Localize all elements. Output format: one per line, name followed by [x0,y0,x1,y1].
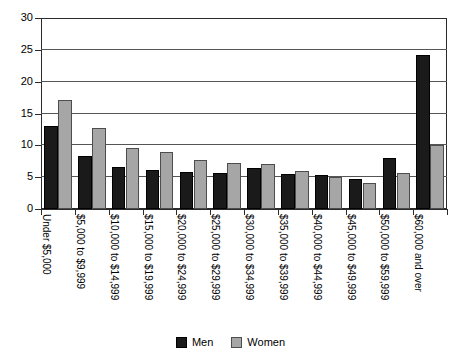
bar-men-8 [315,175,329,209]
bar-men-2 [112,167,126,209]
y-axis-tick [35,114,41,115]
bar-men-5 [213,173,227,209]
bar-men-11 [416,55,430,209]
bar-men-6 [247,168,261,209]
bar-women-8 [329,177,343,209]
income-distribution-bar-chart: 051015202530 Under $5,000$5,000 to $9,99… [0,0,461,364]
y-axis-tick [35,177,41,178]
y-axis-tick [35,145,41,146]
bar-men-3 [146,170,160,209]
bar-women-6 [261,164,275,209]
bar-men-10 [383,158,397,209]
chart-legend: MenWomen [0,332,461,352]
x-axis-category-label: $15,000 to $19,999 [143,214,154,300]
bar-women-5 [227,163,241,209]
bar-men-1 [78,156,92,209]
y-axis-tick-label: 5 [3,171,33,182]
x-axis-category-label: $30,000 to $34,999 [244,214,255,300]
y-axis-tick-label: 20 [3,76,33,87]
bar-men-7 [281,174,295,209]
plot-area [41,18,447,209]
bar-women-10 [397,173,411,209]
x-axis-category-label: $20,000 to $24,999 [176,214,187,300]
bar-men-0 [44,126,58,209]
bar-women-4 [194,160,208,209]
bar-women-1 [92,128,106,209]
bar-men-4 [180,172,194,209]
x-axis-category-label: $50,000 to $59,999 [379,214,390,300]
bar-women-0 [58,100,72,210]
y-axis-tick-label: 30 [3,12,33,23]
y-axis-tick-label: 25 [3,44,33,55]
x-axis-category-labels: Under $5,000$5,000 to $9,999$10,000 to $… [0,214,461,326]
x-axis-category-label: $10,000 to $14,999 [109,214,120,300]
legend-label: Women [247,337,285,348]
bar-women-3 [160,152,174,209]
legend-swatch-women-icon [231,337,242,348]
x-axis-category-label: $5,000 to $9,999 [75,214,86,289]
bar-men-9 [349,179,363,209]
legend-swatch-men-icon [176,337,187,348]
x-axis-category-label: $25,000 to $29,999 [210,214,221,300]
y-axis-tick-label: 10 [3,139,33,150]
bar-women-2 [126,148,140,209]
y-axis-tick-label: 15 [3,108,33,119]
x-axis-category-label: $45,000 to $49,999 [346,214,357,300]
y-axis-tick-label: 0 [3,203,33,214]
bar-women-11 [430,145,444,209]
legend-item-women: Women [231,337,285,348]
y-axis-tick [35,50,41,51]
bar-series-layer [41,18,447,209]
y-axis-tick [35,209,41,210]
legend-label: Men [192,337,213,348]
bar-women-7 [295,171,309,209]
y-axis-tick [35,82,41,83]
legend-item-men: Men [176,337,213,348]
bar-women-9 [363,183,377,209]
x-axis-category-label: Under $5,000 [41,214,52,275]
y-axis-tick [35,18,41,19]
x-axis-category-label: $60,000 and over [413,214,424,292]
x-axis-category-label: $35,000 to $39,999 [278,214,289,300]
x-axis-category-label: $40,000 to $44,999 [312,214,323,300]
